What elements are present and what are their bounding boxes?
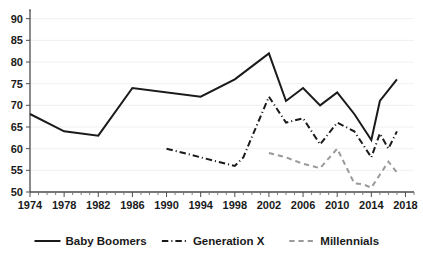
x-axis: 1974197819821986199019941998200220062010… [18,192,418,211]
x-tick-label: 1994 [188,199,213,211]
x-tick-label: 2010 [325,199,349,211]
y-tick-label: 65 [11,121,23,133]
chart-legend: Baby BoomersGeneration XMillennials [35,235,380,247]
x-tick-label: 2002 [257,199,281,211]
x-tick-label: 1990 [154,199,178,211]
chart-canvas: 505560657075808590 197419781982198619901… [0,0,423,259]
x-tick-label: 1974 [18,199,43,211]
y-tick-label: 50 [11,186,23,198]
legend-label-millennials: Millennials [320,235,379,247]
series-lines [30,53,397,187]
y-tick-label: 90 [11,13,23,25]
y-tick-label: 70 [11,99,23,111]
y-axis: 505560657075808590 [11,10,31,198]
y-tick-label: 85 [11,34,23,46]
y-tick-label: 55 [11,164,23,176]
x-tick-label: 1978 [52,199,76,211]
x-tick-label: 1986 [120,199,144,211]
gridlines [30,19,414,192]
x-tick-label: 2006 [291,199,315,211]
y-tick-label: 60 [11,143,23,155]
x-tick-label: 1998 [223,199,247,211]
legend-label-baby-boomers: Baby Boomers [66,235,147,247]
y-tick-label: 75 [11,78,23,90]
x-tick-label: 2018 [393,199,417,211]
x-tick-label: 1982 [86,199,110,211]
y-tick-label: 80 [11,56,23,68]
legend-label-generation-x: Generation X [193,235,265,247]
series-line-millennials [269,149,397,188]
line-chart-figure: 505560657075808590 197419781982198619901… [0,0,423,259]
x-tick-label: 2014 [359,199,384,211]
